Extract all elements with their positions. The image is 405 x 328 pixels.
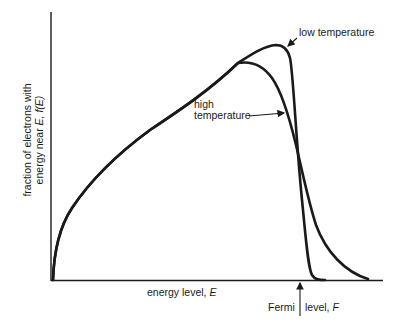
- y-axis-label-line1: fraction of electrons with: [21, 80, 33, 200]
- low-temperature-label: low temperature: [299, 27, 374, 38]
- low-temperature-arrow: [288, 38, 297, 46]
- x-axis-label: energy level, E: [147, 287, 216, 298]
- y-axis-label: fraction of electrons with energy near E…: [21, 80, 45, 200]
- high-temperature-label-line2: temperature: [194, 110, 251, 121]
- high-temperature-arrow: [249, 113, 284, 116]
- fermi-label-level: level, F: [305, 302, 339, 313]
- chart-canvas: [0, 0, 405, 328]
- y-axis-label-line2: energy near E, f(E): [33, 80, 45, 200]
- fermi-label-word: Fermi: [268, 302, 295, 313]
- low-temperature-curve: [53, 45, 325, 280]
